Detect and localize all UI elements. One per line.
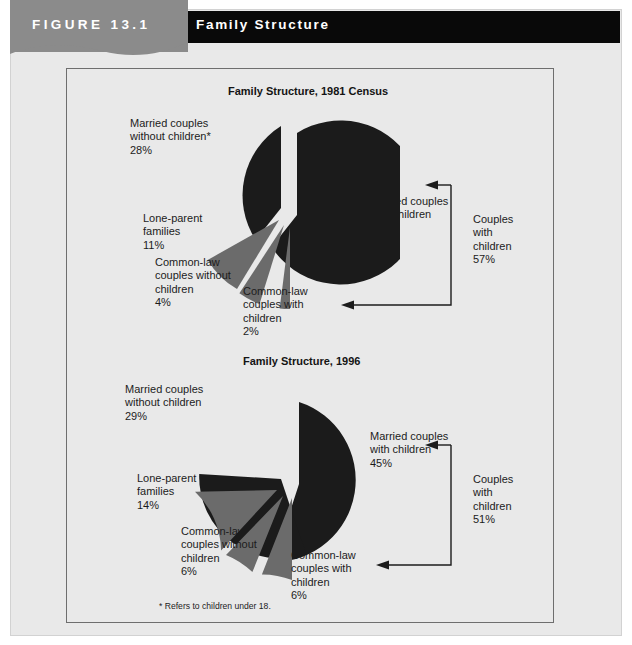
header-wave-decoration (10, 36, 188, 58)
chart1-label-married-with-children-left: Married couples without children* 28% (130, 117, 211, 157)
header-title: Family Structure (196, 17, 330, 32)
figure-label: FIGURE 13.1 (32, 17, 150, 32)
chart1-label-common-law-with-children: Common-law couples with children 2% (243, 285, 308, 339)
chart2-bracket-label: Couples with children 51% (473, 473, 513, 527)
chart2-label-common-law-without-children: Common-law couples without children 6% (181, 525, 257, 579)
figure-footnote: * Refers to children under 18. (159, 601, 271, 611)
chart1-bracket-label: Couples with children 57% (473, 213, 513, 267)
chart2-bracket (320, 440, 470, 575)
chart1-label-common-law-without-children: Common-law couples without children 4% (155, 256, 231, 310)
chart1-label-lone-parent: Lone-parent families 11% (143, 212, 202, 252)
chart2-title: Family Structure, 1996 (243, 355, 360, 367)
chart1-bracket (320, 180, 470, 315)
figure-page: FIGURE 13.1 Family Structure Family Stru… (0, 0, 632, 645)
chart2-label-lone-parent: Lone-parent families 14% (137, 472, 196, 512)
chart1-title: Family Structure, 1981 Census (228, 85, 388, 97)
chart2-label-married-without-children: Married couples without children 29% (125, 383, 203, 423)
